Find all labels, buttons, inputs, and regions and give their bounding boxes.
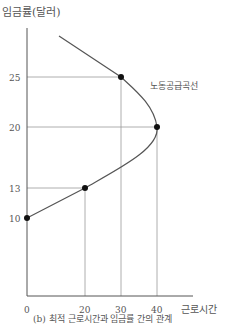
axes: [27, 28, 193, 296]
curve-label: 노동공급곡선: [150, 81, 198, 91]
y-tick-20: 20: [9, 123, 21, 133]
x-axis-label: 근로시간: [181, 304, 217, 315]
x-tick-0: 0: [24, 305, 30, 315]
figure-caption: (b) 최적 근로시간과 임금률 간의 관계: [33, 313, 172, 324]
guide-lines: [27, 77, 157, 296]
labor-supply-chart: 임금률(달러) 25 20 13 10 0 20 30 40 근로시간 노동공급…: [0, 0, 226, 326]
y-tick-10: 10: [9, 214, 21, 224]
data-points: [24, 74, 160, 221]
y-axis-label: 임금률(달러): [2, 6, 61, 19]
y-tick-13: 13: [9, 184, 21, 194]
y-tick-25: 25: [9, 73, 21, 83]
